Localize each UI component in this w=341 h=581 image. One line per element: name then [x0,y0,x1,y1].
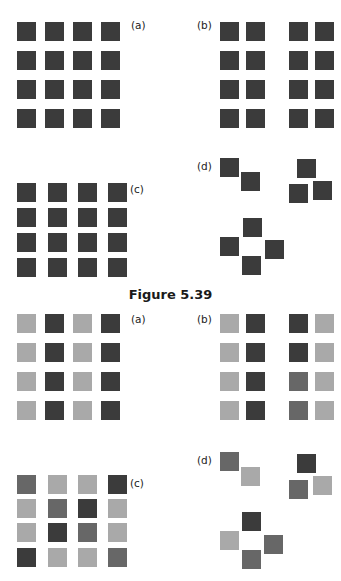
square-dark [78,499,97,518]
square-dark [78,208,97,227]
square-light [315,343,334,362]
square-light [73,314,92,333]
square-dark [289,22,308,41]
square-mid [220,452,239,471]
square-light [220,314,239,333]
square-light [17,499,36,518]
square-dark [78,183,97,202]
square-dark [73,109,92,128]
square-light [220,343,239,362]
square-mid [48,499,67,518]
square-light [108,499,127,518]
square-dark [289,343,308,362]
square-dark [17,258,36,277]
square-dark [73,51,92,70]
square-light [17,343,36,362]
square-dark [17,183,36,202]
square-light [17,401,36,420]
square-mid [78,523,97,542]
square-dark [246,314,265,333]
square-light [78,548,97,567]
square-dark [48,233,67,252]
square-dark [48,523,67,542]
figure-caption: Figure 5.39 [0,287,341,302]
panel-label: (c) [130,478,144,489]
square-light [241,467,260,486]
square-light [313,476,332,495]
square-dark [246,343,265,362]
square-mid [17,475,36,494]
square-dark [289,184,308,203]
square-dark [101,22,120,41]
square-dark [242,256,261,275]
square-dark [17,109,36,128]
square-light [78,475,97,494]
square-dark [45,401,64,420]
square-dark [315,80,334,99]
figure-canvas: (a)(b)(c)(d) Figure 5.39 (a)(b)(c)(d) [0,0,341,581]
square-mid [289,372,308,391]
square-dark [246,372,265,391]
square-light [73,343,92,362]
square-dark [101,80,120,99]
panel-label: (a) [131,20,146,31]
square-dark [246,401,265,420]
square-dark [108,233,127,252]
square-light [220,372,239,391]
square-light [17,372,36,391]
square-dark [108,183,127,202]
square-dark [101,343,120,362]
square-dark [48,258,67,277]
square-light [315,372,334,391]
square-dark [45,22,64,41]
square-dark [73,80,92,99]
square-dark [17,51,36,70]
square-dark [246,51,265,70]
square-dark [45,80,64,99]
panel-label: (b) [197,314,212,325]
square-dark [289,314,308,333]
square-dark [48,183,67,202]
panel-label: (d) [197,455,212,466]
square-dark [246,80,265,99]
square-dark [220,22,239,41]
square-dark [17,548,36,567]
square-dark [73,22,92,41]
square-dark [265,240,284,259]
square-mid [289,401,308,420]
square-dark [289,80,308,99]
panel-label: (b) [197,20,212,31]
square-mid [289,480,308,499]
square-dark [101,372,120,391]
square-dark [313,181,332,200]
panel-label: (a) [131,314,146,325]
square-dark [45,109,64,128]
square-dark [241,172,260,191]
square-dark [246,109,265,128]
square-dark [45,314,64,333]
square-light [48,475,67,494]
square-dark [48,208,67,227]
square-dark [101,401,120,420]
square-light [17,314,36,333]
panel-label: (c) [130,184,144,195]
square-light [73,401,92,420]
square-light [220,401,239,420]
square-light [48,548,67,567]
square-dark [297,454,316,473]
square-dark [315,51,334,70]
square-dark [101,51,120,70]
square-dark [45,343,64,362]
square-dark [108,208,127,227]
square-dark [246,22,265,41]
square-dark [289,109,308,128]
square-dark [242,512,261,531]
square-dark [108,475,127,494]
square-dark [17,233,36,252]
square-mid [108,548,127,567]
square-dark [17,22,36,41]
square-dark [101,314,120,333]
square-dark [220,109,239,128]
square-dark [220,158,239,177]
square-dark [289,51,308,70]
